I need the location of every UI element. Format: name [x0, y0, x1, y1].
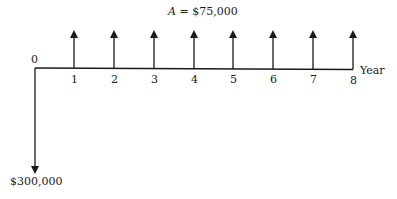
- annuity-label: A = $75,000: [168, 5, 238, 18]
- tick-label: 6: [270, 73, 277, 86]
- inflow-arrows: [74, 34, 353, 70]
- annuity-amount: = $75,000: [176, 5, 238, 18]
- origin-label: 0: [31, 53, 38, 66]
- annuity-variable: A: [168, 5, 176, 18]
- tick-label: 1: [71, 73, 78, 86]
- tick-label: 7: [310, 73, 317, 86]
- outflow-label: $300,000: [10, 175, 63, 188]
- tick-label: 3: [151, 73, 158, 86]
- tick-label: 8: [350, 74, 357, 87]
- cash-flow-diagram: [0, 0, 397, 199]
- tick-label: 5: [230, 73, 237, 86]
- tick-label: 2: [111, 73, 118, 86]
- axis-label-year: Year: [360, 64, 385, 77]
- tick-label: 4: [191, 73, 198, 86]
